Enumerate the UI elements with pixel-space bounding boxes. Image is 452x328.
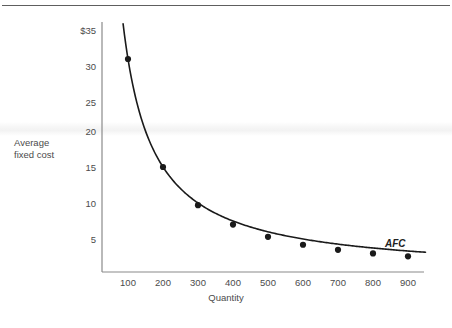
data-point-900 [405, 253, 411, 259]
data-point-200 [160, 164, 166, 170]
data-point-700 [335, 247, 341, 253]
chart-screenshot: Average fixed cost Quantity $35 30 25 20… [0, 0, 452, 328]
data-point-600 [300, 242, 306, 248]
plot-svg [0, 0, 452, 328]
data-point-400 [230, 222, 236, 228]
data-point-800 [370, 250, 376, 256]
axes-group [102, 22, 424, 272]
afc-chart: Average fixed cost Quantity $35 30 25 20… [0, 0, 452, 328]
afc-curve [123, 24, 425, 252]
afc-markers [125, 56, 411, 259]
series-group-afc [123, 24, 425, 260]
data-point-100 [125, 56, 131, 62]
data-point-300 [195, 202, 201, 208]
data-point-500 [265, 234, 271, 240]
